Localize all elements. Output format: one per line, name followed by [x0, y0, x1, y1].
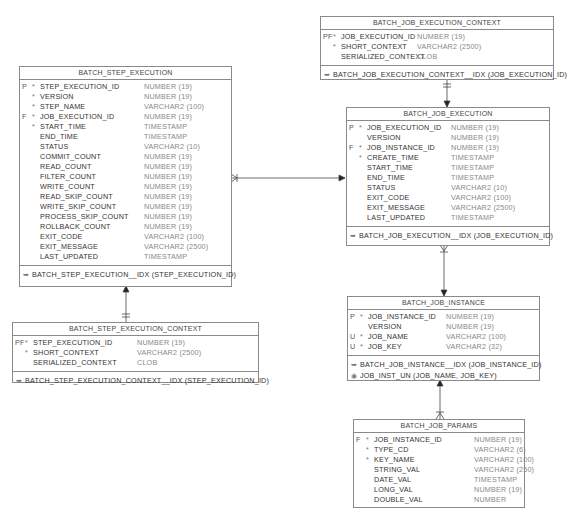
column-type: NUMBER (19) [144, 162, 192, 172]
index-list: ➥BATCH_STEP_EXECUTION__IDX (STEP_EXECUTI… [20, 266, 231, 286]
rel-step-exec-to-job-exec [231, 174, 345, 182]
column-row[interactable]: SERIALIZED_CONTEXTCLOB [321, 52, 553, 62]
entity-title: BATCH_JOB_EXECUTION [347, 108, 549, 121]
column-name: ROLLBACK_COUNT [40, 222, 111, 232]
column-row[interactable]: *VERSIONNUMBER (19) [20, 92, 231, 102]
column-list: P*JOB_EXECUTION_IDNUMBER (19)VERSIONNUMB… [347, 121, 549, 227]
index-row[interactable]: ➥BATCH_STEP_EXECUTION__IDX (STEP_EXECUTI… [20, 269, 231, 280]
index-list: ➥BATCH_JOB_EXECUTION__IDX (JOB_EXECUTION… [347, 227, 549, 247]
column-row[interactable]: WRITE_COUNTNUMBER (19) [20, 182, 231, 192]
column-row[interactable]: *SHORT_CONTEXTVARCHAR2 (2500) [321, 42, 553, 52]
column-row[interactable]: *START_TIMETIMESTAMP [20, 122, 231, 132]
column-list: PF*JOB_EXECUTION_IDNUMBER (19)*SHORT_CON… [321, 30, 553, 66]
column-row[interactable]: U*JOB_NAMEVARCHAR2 (100) [348, 332, 539, 342]
column-row[interactable]: *SHORT_CONTEXTVARCHAR2 (2500) [13, 348, 258, 358]
column-row[interactable]: FILTER_COUNTNUMBER (19) [20, 172, 231, 182]
entity-title: BATCH_JOB_PARAMS [354, 420, 524, 433]
index-row[interactable]: ➥BATCH_STEP_EXECUTION_CONTEXT__IDX (STEP… [13, 375, 258, 386]
column-type: NUMBER [474, 495, 506, 505]
entity-title: BATCH_STEP_EXECUTION [20, 67, 231, 80]
column-row[interactable]: START_TIMETIMESTAMP [347, 163, 549, 173]
index-text: BATCH_STEP_EXECUTION_CONTEXT__IDX (STEP_… [25, 376, 269, 385]
column-row[interactable]: LONG_VALNUMBER (19) [354, 485, 524, 495]
column-type: NUMBER (19) [144, 92, 192, 102]
column-row[interactable]: END_TIMETIMESTAMP [20, 132, 231, 142]
column-row[interactable]: END_TIMETIMESTAMP [347, 173, 549, 183]
column-key-flag: F [22, 112, 32, 122]
entity-batch-job-instance[interactable]: BATCH_JOB_INSTANCE P*JOB_INSTANCE_IDNUMB… [347, 296, 540, 381]
column-type: TIMESTAMP [451, 173, 494, 183]
index-icon: ➥ [351, 359, 360, 370]
column-type: VARCHAR2 (2500) [137, 348, 201, 358]
column-row[interactable]: PROCESS_SKIP_COUNTNUMBER (19) [20, 212, 231, 222]
column-row[interactable]: READ_COUNTNUMBER (19) [20, 162, 231, 172]
column-type: TIMESTAMP [144, 122, 187, 132]
column-type: TIMESTAMP [451, 213, 494, 223]
column-row[interactable]: PF*STEP_EXECUTION_IDNUMBER (19) [13, 338, 258, 348]
column-name: VERSION [40, 92, 74, 102]
column-row[interactable]: DOUBLE_VALNUMBER [354, 495, 524, 505]
column-key-flag: U [350, 332, 360, 342]
column-row[interactable]: READ_SKIP_COUNTNUMBER (19) [20, 192, 231, 202]
column-row[interactable]: STATUSVARCHAR2 (10) [20, 142, 231, 152]
column-row[interactable]: LAST_UPDATEDTIMESTAMP [347, 213, 549, 223]
column-row[interactable]: EXIT_CODEVARCHAR2 (100) [347, 193, 549, 203]
column-row[interactable]: LAST_UPDATEDTIMESTAMP [20, 252, 231, 262]
column-name: EXIT_CODE [40, 232, 83, 242]
column-row[interactable]: WRITE_SKIP_COUNTNUMBER (19) [20, 202, 231, 212]
index-row[interactable]: ➥BATCH_JOB_INSTANCE__IDX (JOB_INSTANCE_I… [348, 359, 539, 370]
column-row[interactable]: F*JOB_INSTANCE_IDNUMBER (19) [347, 143, 549, 153]
column-row[interactable]: *CREATE_TIMETIMESTAMP [347, 153, 549, 163]
column-name: STATUS [40, 142, 69, 152]
entity-batch-step-execution[interactable]: BATCH_STEP_EXECUTION P*STEP_EXECUTION_ID… [19, 66, 232, 287]
column-name: JOB_INSTANCE_ID [368, 312, 436, 322]
column-type: VARCHAR2 (2500) [451, 203, 515, 213]
column-row[interactable]: P*JOB_INSTANCE_IDNUMBER (19) [348, 312, 539, 322]
column-row[interactable]: COMMIT_COUNTNUMBER (19) [20, 152, 231, 162]
column-row[interactable]: PF*JOB_EXECUTION_IDNUMBER (19) [321, 32, 553, 42]
column-name: READ_COUNT [40, 162, 92, 172]
column-row[interactable]: *TYPE_CDVARCHAR2 (6) [354, 445, 524, 455]
index-row[interactable]: ➥BATCH_JOB_EXECUTION__IDX (JOB_EXECUTION… [347, 230, 549, 241]
column-type: VARCHAR2 (100) [474, 455, 534, 465]
column-required-flag: * [25, 338, 28, 348]
column-required-flag: * [32, 112, 35, 122]
column-type: NUMBER (19) [446, 322, 494, 332]
column-row[interactable]: U*JOB_KEYVARCHAR2 (32) [348, 342, 539, 352]
column-type: VARCHAR2 (250) [474, 465, 534, 475]
column-name: LONG_VAL [374, 485, 413, 495]
column-row[interactable]: F*JOB_INSTANCE_IDNUMBER (19) [354, 435, 524, 445]
index-row[interactable]: ◉JOB_INST_UN (JOB_NAME, JOB_KEY) [348, 370, 539, 381]
column-row[interactable]: STRING_VALVARCHAR2 (250) [354, 465, 524, 475]
column-row[interactable]: F*JOB_EXECUTION_IDNUMBER (19) [20, 112, 231, 122]
column-row[interactable]: *STEP_NAMEVARCHAR2 (100) [20, 102, 231, 112]
index-row[interactable]: ➥BATCH_JOB_EXECUTION_CONTEXT__IDX (JOB_E… [321, 69, 553, 80]
column-type: VARCHAR2 (100) [446, 332, 506, 342]
column-row[interactable]: P*JOB_EXECUTION_IDNUMBER (19) [347, 123, 549, 133]
column-row[interactable]: DATE_VALTIMESTAMP [354, 475, 524, 485]
rel-step-context-to-step-exec [122, 286, 130, 322]
column-list: P*JOB_INSTANCE_IDNUMBER (19)VERSIONNUMBE… [348, 310, 539, 356]
column-row[interactable]: SERIALIZED_CONTEXTCLOB [13, 358, 258, 368]
column-name: EXIT_CODE [367, 193, 410, 203]
column-row[interactable]: VERSIONNUMBER (19) [348, 322, 539, 332]
column-row[interactable]: ROLLBACK_COUNTNUMBER (19) [20, 222, 231, 232]
column-row[interactable]: VERSIONNUMBER (19) [347, 133, 549, 143]
column-row[interactable]: EXIT_MESSAGEVARCHAR2 (2500) [20, 242, 231, 252]
column-row[interactable]: STATUSVARCHAR2 (10) [347, 183, 549, 193]
entity-batch-step-execution-context[interactable]: BATCH_STEP_EXECUTION_CONTEXT PF*STEP_EXE… [12, 322, 259, 383]
column-name: JOB_EXECUTION_ID [341, 32, 415, 42]
column-row[interactable]: P*STEP_EXECUTION_IDNUMBER (19) [20, 82, 231, 92]
entity-batch-job-params[interactable]: BATCH_JOB_PARAMS F*JOB_INSTANCE_IDNUMBER… [353, 419, 525, 508]
column-row[interactable]: EXIT_CODEVARCHAR2 (100) [20, 232, 231, 242]
column-type: NUMBER (19) [417, 32, 465, 42]
entity-batch-job-execution[interactable]: BATCH_JOB_EXECUTION P*JOB_EXECUTION_IDNU… [346, 107, 550, 246]
column-type: VARCHAR2 (100) [144, 232, 204, 242]
index-text: BATCH_STEP_EXECUTION__IDX (STEP_EXECUTIO… [32, 270, 236, 279]
column-type: CLOB [417, 52, 437, 62]
entity-batch-job-execution-context[interactable]: BATCH_JOB_EXECUTION_CONTEXT PF*JOB_EXECU… [320, 16, 554, 80]
column-row[interactable]: *KEY_NAMEVARCHAR2 (100) [354, 455, 524, 465]
column-type: TIMESTAMP [144, 252, 187, 262]
column-key-flag: P [350, 312, 360, 322]
column-row[interactable]: EXIT_MESSAGEVARCHAR2 (2500) [347, 203, 549, 213]
